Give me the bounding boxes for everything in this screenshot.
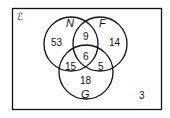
region-f-g: 5: [98, 61, 104, 72]
universal-set-symbol: ℰ: [17, 11, 23, 22]
set-f-label: F: [99, 17, 107, 29]
region-n-only: 53: [51, 37, 63, 48]
region-g-only: 18: [80, 75, 92, 86]
region-n-g: 15: [65, 61, 77, 72]
set-g-label: G: [81, 88, 90, 100]
set-n-label: N: [66, 17, 74, 29]
venn-diagram: ℰ N F G 53 14 9 6 15 5 18 3: [0, 0, 170, 118]
region-n-f: 9: [83, 31, 89, 42]
region-outside: 3: [139, 90, 145, 101]
region-n-f-g: 6: [83, 51, 89, 62]
region-f-only: 14: [109, 37, 121, 48]
